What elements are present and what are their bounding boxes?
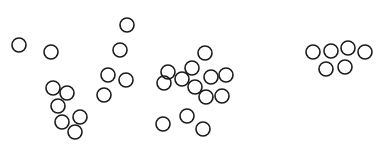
background bbox=[0, 0, 387, 157]
circle-diagram bbox=[0, 0, 387, 157]
